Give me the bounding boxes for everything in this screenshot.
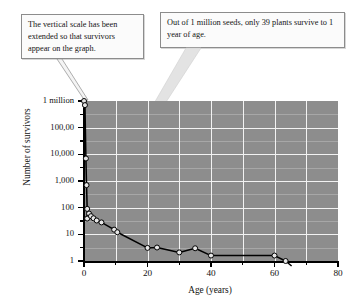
data-point-marker bbox=[84, 183, 89, 188]
data-point-marker bbox=[145, 245, 150, 250]
y-axis-title: Number of survivors bbox=[22, 92, 32, 202]
data-series-layer bbox=[0, 0, 361, 307]
data-point-marker bbox=[272, 253, 277, 258]
data-point-marker bbox=[83, 156, 88, 161]
data-point-marker bbox=[99, 220, 104, 225]
figure-survivorship-curve: The vertical scale has been extended so … bbox=[0, 0, 361, 307]
data-point-marker bbox=[82, 103, 87, 108]
data-point-marker bbox=[115, 230, 120, 235]
x-axis-title: Age (years) bbox=[150, 285, 270, 295]
data-point-marker bbox=[209, 253, 214, 258]
data-point-marker bbox=[155, 245, 160, 250]
data-point-marker bbox=[283, 259, 288, 264]
data-point-marker bbox=[177, 250, 182, 255]
data-point-marker bbox=[94, 218, 99, 223]
data-line bbox=[84, 101, 286, 261]
data-point-marker bbox=[193, 246, 198, 251]
